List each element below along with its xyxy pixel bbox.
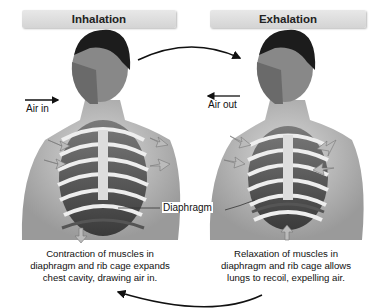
caption-line: diaphragm and rib cage expands — [10, 260, 190, 272]
cycle-arrow-bottom — [118, 292, 262, 307]
caption-line: Contraction of muscles in — [10, 248, 190, 260]
caption-line: diaphragm and rib cage allows — [196, 260, 376, 272]
caption-line: chest cavity, drawing air in. — [10, 272, 190, 284]
air-in-label: Air in — [26, 103, 49, 114]
inhalation-figure — [22, 30, 180, 243]
cycle-arrow-top — [138, 47, 240, 60]
caption-line: lungs to recoil, expelling air. — [196, 272, 376, 284]
inhalation-caption: Contraction of muscles in diaphragm and … — [10, 248, 190, 284]
exhalation-caption: Relaxation of muscles in diaphragm and r… — [196, 248, 376, 284]
caption-line: Relaxation of muscles in — [196, 248, 376, 260]
diaphragm-label: Diaphragm — [162, 202, 213, 213]
air-out-label: Air out — [208, 99, 237, 110]
